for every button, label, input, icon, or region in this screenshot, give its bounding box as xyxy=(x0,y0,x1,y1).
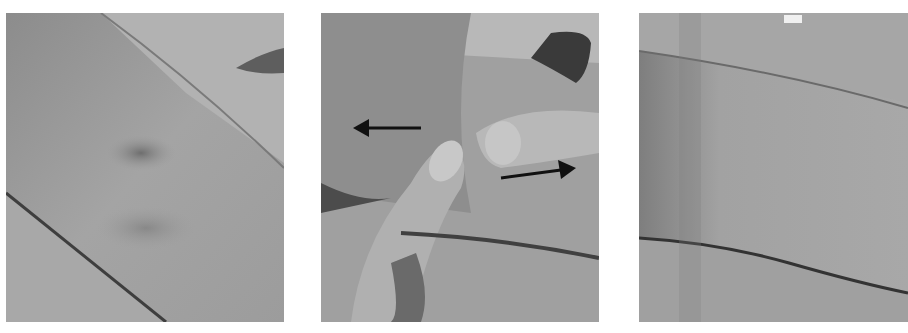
skin-stretch-photo xyxy=(321,13,599,322)
photo-panel-3 xyxy=(639,13,908,322)
forearm-photo-before xyxy=(6,13,284,322)
forearm-photo-after xyxy=(639,13,908,322)
photo-panel-2 xyxy=(321,13,599,322)
photo-panel-1 xyxy=(6,13,284,322)
